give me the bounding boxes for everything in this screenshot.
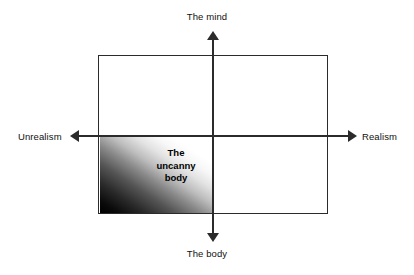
axis-label-top: The mind: [0, 11, 414, 22]
uncanny-body-label-line-2: uncanny: [140, 160, 212, 173]
arrow-left-icon: [70, 130, 79, 142]
diagram-canvas: The mind The body Unrealism Realism The …: [0, 0, 414, 275]
axis-label-right: Realism: [362, 131, 397, 142]
vertical-axis-line: [212, 38, 214, 238]
arrow-right-icon: [348, 130, 357, 142]
uncanny-body-label-line-3: body: [140, 172, 212, 185]
axis-label-left: Unrealism: [18, 131, 62, 142]
axis-label-bottom: The body: [0, 248, 414, 259]
uncanny-body-label-line-1: The: [140, 147, 212, 160]
uncanny-body-label: The uncanny body: [140, 147, 212, 185]
arrow-up-icon: [207, 31, 219, 40]
arrow-down-icon: [207, 233, 219, 242]
horizontal-axis-line: [78, 135, 352, 137]
